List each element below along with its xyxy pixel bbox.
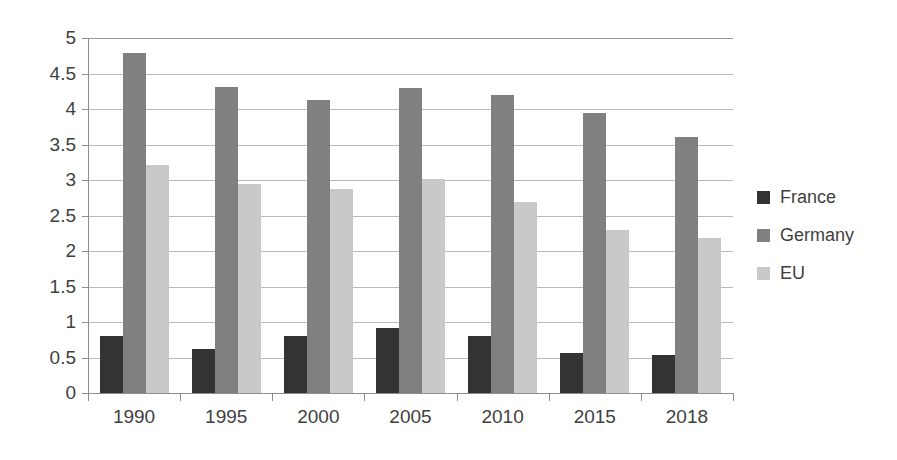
bar-eu-2005 <box>422 179 445 393</box>
bar-germany-1990 <box>123 53 146 393</box>
legend-swatch-icon <box>757 229 770 242</box>
y-axis-tick-label: 3 <box>6 170 76 189</box>
x-axis-tick <box>641 393 642 401</box>
bar-eu-1990 <box>146 165 169 393</box>
bar-eu-2015 <box>606 230 629 393</box>
x-axis-tick <box>180 393 181 401</box>
bar-germany-2010 <box>491 95 514 393</box>
y-axis-tick <box>82 38 89 39</box>
bar-france-2018 <box>652 355 675 393</box>
bar-france-2015 <box>560 353 583 393</box>
y-axis-tick <box>82 145 89 146</box>
bar-eu-2010 <box>514 202 537 393</box>
bar-germany-2015 <box>583 113 606 393</box>
legend-label: France <box>780 187 836 208</box>
x-axis-tick-label: 2015 <box>549 404 641 431</box>
y-axis-tick-label: 4 <box>6 99 76 118</box>
bar-germany-2018 <box>675 137 698 393</box>
bars-layer <box>88 38 733 393</box>
x-axis-tick <box>364 393 365 401</box>
x-axis-tick-label: 2000 <box>272 404 364 431</box>
y-axis-tick <box>82 251 89 252</box>
x-axis-tick <box>733 393 734 401</box>
x-axis-tick-label: 2010 <box>457 404 549 431</box>
y-axis-tick <box>82 74 89 75</box>
x-axis-tick-label: 1995 <box>180 404 272 431</box>
y-axis-tick <box>82 287 89 288</box>
legend-swatch-icon <box>757 191 770 204</box>
x-axis-tick-label: 2005 <box>364 404 456 431</box>
x-axis-tick <box>457 393 458 401</box>
bar-germany-2000 <box>307 100 330 393</box>
gridline <box>88 393 733 394</box>
bar-france-1990 <box>100 336 123 393</box>
legend-label: EU <box>780 263 805 284</box>
x-axis-tick <box>272 393 273 401</box>
bar-france-2005 <box>376 328 399 393</box>
x-axis-tick <box>88 393 89 401</box>
bar-germany-1995 <box>215 87 238 393</box>
bar-chart: 00.511.522.533.544.55 FranceGermanyEU 19… <box>0 0 897 460</box>
y-axis-tick-label: 0 <box>6 383 76 402</box>
y-axis-tick <box>82 109 89 110</box>
y-axis-tick-label: 2 <box>6 241 76 260</box>
x-axis-tick-label: 2018 <box>641 404 733 431</box>
legend-item-france: France <box>757 178 887 216</box>
bar-france-2000 <box>284 336 307 393</box>
x-axis-tick <box>549 393 550 401</box>
bar-eu-1995 <box>238 184 261 393</box>
legend-item-eu: EU <box>757 254 887 292</box>
legend-item-germany: Germany <box>757 216 887 254</box>
bar-eu-2000 <box>330 189 353 393</box>
legend-swatch-icon <box>757 267 770 280</box>
x-axis-tick-label: 1990 <box>88 404 180 431</box>
y-axis-tick-label: 1.5 <box>6 277 76 296</box>
bar-germany-2005 <box>399 88 422 393</box>
y-axis-tick-label: 4.5 <box>6 64 76 83</box>
chart-legend: FranceGermanyEU <box>757 178 887 292</box>
legend-label: Germany <box>780 225 854 246</box>
bar-france-1995 <box>192 349 215 393</box>
y-axis-tick-label: 5 <box>6 28 76 47</box>
y-axis-tick <box>82 216 89 217</box>
y-axis-tick <box>82 322 89 323</box>
y-axis-tick-label: 1 <box>6 312 76 331</box>
y-axis-labels: 00.511.522.533.544.55 <box>0 0 76 460</box>
y-axis-tick-label: 2.5 <box>6 206 76 225</box>
y-axis-tick-label: 0.5 <box>6 348 76 367</box>
y-axis-tick <box>82 180 89 181</box>
bar-france-2010 <box>468 336 491 393</box>
bar-eu-2018 <box>698 238 721 393</box>
y-axis-tick-label: 3.5 <box>6 135 76 154</box>
y-axis-tick <box>82 358 89 359</box>
